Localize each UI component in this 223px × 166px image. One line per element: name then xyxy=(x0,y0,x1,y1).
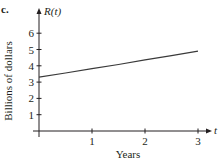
y-tick-label: 3 xyxy=(29,76,35,88)
x-axis-arrow-icon xyxy=(206,129,212,134)
x-tick-label: 2 xyxy=(142,135,148,147)
x-axis-name: t xyxy=(214,124,218,136)
y-tick-label: 5 xyxy=(29,44,35,56)
x-axis-title: Years xyxy=(116,148,141,160)
x-tick-label: 1 xyxy=(89,135,95,147)
y-axis-name: R(t) xyxy=(43,5,61,18)
y-axis-title: Billions of dollars xyxy=(2,41,14,120)
y-tick-label: 2 xyxy=(29,92,35,104)
y-tick-label: 6 xyxy=(29,27,35,39)
y-tick-label: 1 xyxy=(29,109,35,121)
x-tick-label: 3 xyxy=(195,135,201,147)
y-tick-label: 4 xyxy=(29,60,35,72)
y-axis-ticks: 123456 xyxy=(29,27,42,121)
line-chart: 123456 123 Billions of dollars Years R(t… xyxy=(0,0,223,166)
revenue-curve xyxy=(39,51,198,77)
y-axis-arrow-icon xyxy=(37,8,42,14)
axes xyxy=(33,8,212,137)
